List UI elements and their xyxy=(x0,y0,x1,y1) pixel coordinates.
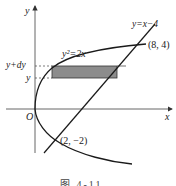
point-8-4-label: (8, 4) xyxy=(148,40,170,50)
strip-lower-label: y xyxy=(26,73,30,83)
x-axis-label: x xyxy=(165,112,169,122)
figure-caption: 图 4-11 xyxy=(60,176,102,186)
origin-label: O xyxy=(26,112,33,122)
parabola-label: y²=2x xyxy=(62,49,86,59)
line-curve xyxy=(44,24,155,153)
shaded-strip xyxy=(52,66,117,78)
point-2-neg2-label: (2, −2) xyxy=(60,136,87,146)
parabola-curve xyxy=(35,44,146,164)
strip-upper-label: y+dy xyxy=(6,61,26,71)
line-label: y=x−4 xyxy=(132,20,158,30)
diagram-figure: y x O y²=2x y=x−4 (8, 4) (2, −2) y+dy y … xyxy=(0,0,176,186)
y-axis-label: y xyxy=(25,6,29,16)
